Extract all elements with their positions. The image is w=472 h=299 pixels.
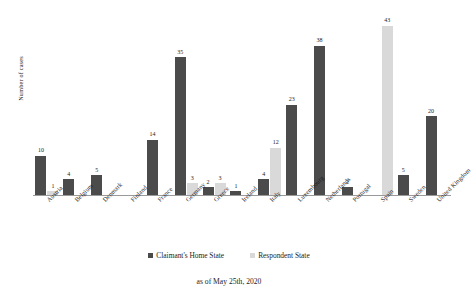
bar-rect (258, 179, 269, 195)
bar-respondent[interactable] (326, 18, 337, 195)
bar-rect (147, 140, 158, 195)
bar-respondent[interactable]: 3 (215, 18, 226, 195)
bar-claimant[interactable]: 4 (63, 18, 74, 195)
bar-group: 23 (284, 18, 312, 195)
bar-claimant[interactable]: 2 (342, 18, 353, 195)
bar-respondent[interactable] (354, 18, 365, 195)
bar-respondent[interactable] (438, 18, 449, 195)
bar-respondent[interactable] (103, 18, 114, 195)
bar-group (117, 18, 145, 195)
bar-group: 20 (423, 18, 451, 195)
bar-rect (342, 187, 353, 195)
bar-claimant[interactable]: 5 (91, 18, 102, 195)
bar-claimant[interactable]: 5 (398, 18, 409, 195)
bar-rect (63, 179, 74, 195)
legend-label-claimant: Claimant's Home State (156, 251, 224, 260)
bar-respondent[interactable] (131, 18, 142, 195)
bar-group: 5 (395, 18, 423, 195)
bar-group: 1 (228, 18, 256, 195)
bar-respondent[interactable] (298, 18, 309, 195)
bar-claimant[interactable]: 2 (203, 18, 214, 195)
bar-claimant[interactable] (119, 18, 130, 195)
bar-claimant[interactable]: 14 (147, 18, 158, 195)
bar-claimant[interactable]: 35 (175, 18, 186, 195)
bar-claimant[interactable]: 1 (230, 18, 241, 195)
bar-group: 101 (33, 18, 61, 195)
bar-rect (426, 116, 437, 195)
y-axis-title: Number of cases (17, 39, 24, 119)
bar-group: 38 (312, 18, 340, 195)
bar-group: 353 (172, 18, 200, 195)
bar-claimant[interactable] (370, 18, 381, 195)
bar-respondent[interactable] (410, 18, 421, 195)
bar-claimant[interactable]: 23 (286, 18, 297, 195)
bar-respondent[interactable] (242, 18, 253, 195)
bar-respondent[interactable]: 12 (270, 18, 281, 195)
legend-swatch-respondent-icon (250, 253, 255, 258)
bar-group: 2 (340, 18, 368, 195)
bar-group: 23 (200, 18, 228, 195)
legend-swatch-claimant-icon (148, 253, 153, 258)
bar-claimant[interactable]: 38 (314, 18, 325, 195)
legend-label-respondent: Respondent State (258, 251, 310, 260)
bar-rect (203, 187, 214, 195)
chart-footnote: as of May 25th, 2020 (0, 277, 458, 286)
bar-group: 14 (144, 18, 172, 195)
bar-rect (270, 148, 281, 195)
plot-area: 10145143532314122338243520 (33, 18, 451, 195)
bar-rect (398, 175, 409, 195)
bar-claimant[interactable]: 20 (426, 18, 437, 195)
bar-respondent[interactable]: 1 (47, 18, 58, 195)
bar-group: 5 (89, 18, 117, 195)
bar-group: 412 (256, 18, 284, 195)
bar-respondent[interactable]: 3 (187, 18, 198, 195)
chart-legend: Claimant's Home State Respondent State (0, 251, 458, 260)
bar-claimant[interactable]: 10 (35, 18, 46, 195)
legend-item-claimant: Claimant's Home State (148, 251, 224, 260)
bar-rect (286, 105, 297, 195)
bar-claimant[interactable]: 4 (258, 18, 269, 195)
bar-respondent[interactable] (159, 18, 170, 195)
legend-item-respondent: Respondent State (250, 251, 310, 260)
